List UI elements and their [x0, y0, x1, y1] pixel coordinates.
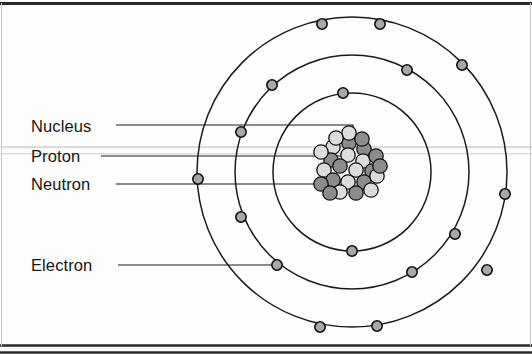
electron-particle [272, 260, 282, 270]
proton-particle [333, 159, 347, 173]
electron-particle [338, 88, 348, 98]
electron-particle [402, 65, 412, 75]
neutron-particle [329, 131, 343, 145]
electron-particle [450, 229, 460, 239]
neutron-particle [314, 145, 328, 159]
electron-particle [317, 19, 327, 29]
electron-particle [457, 60, 467, 70]
proton-particle [349, 186, 363, 200]
electron-particle [193, 174, 203, 184]
electron-particle [267, 80, 277, 90]
proton-particle [373, 159, 387, 173]
label-electron: Electron [31, 257, 92, 274]
atom-diagram-figure: Nucleus Proton Neutron Electron [0, 0, 532, 354]
electron-particle [375, 19, 385, 29]
neutron-particle [364, 183, 378, 197]
electron-particle [500, 189, 510, 199]
proton-particle [355, 132, 369, 146]
proton-particle [323, 186, 337, 200]
electron-particle [315, 322, 325, 332]
electron-particle [407, 267, 417, 277]
electron-particle [482, 265, 492, 275]
neutron-particle [342, 126, 356, 140]
label-nucleus: Nucleus [31, 118, 91, 135]
label-neutron: Neutron [31, 176, 90, 193]
label-proton: Proton [31, 148, 80, 165]
electron-particle [236, 127, 246, 137]
electron-particle [372, 321, 382, 331]
electron-particle [347, 246, 357, 256]
electron-particle [236, 212, 246, 222]
